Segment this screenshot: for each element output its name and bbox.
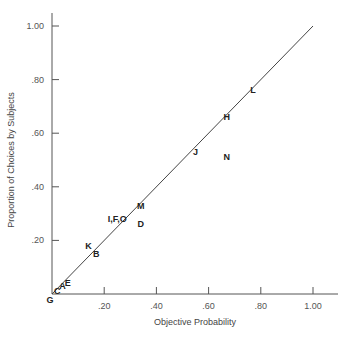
y-tick-label: .60 [31, 128, 44, 138]
point-label: B [93, 249, 100, 259]
x-axis-title: Objective Probability [154, 317, 237, 327]
point-label: H [224, 112, 231, 122]
x-tick-label: .40 [150, 301, 163, 311]
y-axis-title: Proportion of Choices by Subjects [6, 92, 16, 228]
x-ticks: .20.40.60.801.00 [98, 287, 322, 311]
scatter-chart: .20.40.60.801.00 .20.40.60.801.00 GCAEKB… [0, 0, 352, 342]
x-tick-label: .80 [255, 301, 268, 311]
point-label: J [193, 147, 198, 157]
y-tick-label: .40 [31, 182, 44, 192]
y-tick-label: .20 [31, 235, 44, 245]
x-tick-label: 1.00 [304, 301, 322, 311]
y-ticks: .20.40.60.801.00 [26, 21, 59, 245]
point-label: I,F,O [108, 214, 127, 224]
y-tick-label: 1.00 [26, 21, 44, 31]
point-label: G [46, 295, 53, 305]
data-point-labels: GCAEKBI,F,OMDJNHL [46, 85, 256, 305]
point-label: L [250, 85, 256, 95]
x-tick-label: .60 [202, 301, 215, 311]
x-tick-label: .20 [98, 301, 111, 311]
point-label: E [65, 278, 71, 288]
point-label: N [224, 152, 231, 162]
point-label: M [137, 201, 145, 211]
y-tick-label: .80 [31, 75, 44, 85]
point-label: D [137, 219, 144, 229]
identity-line [52, 26, 313, 294]
point-label: K [85, 241, 92, 251]
